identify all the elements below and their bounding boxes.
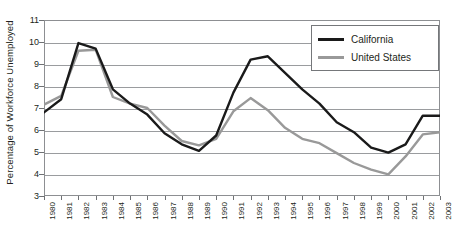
- x-tick-mark-1995: [302, 196, 303, 200]
- x-tick-label-1998: 1998: [358, 202, 367, 220]
- x-tick-label-1999: 1999: [375, 202, 384, 220]
- x-tick-label-1981: 1981: [65, 202, 74, 220]
- x-tick-label-1983: 1983: [100, 202, 109, 220]
- x-tick-label-1985: 1985: [134, 202, 143, 220]
- x-tick-mark-1988: [182, 196, 183, 200]
- x-tick-label-1989: 1989: [203, 202, 212, 220]
- x-tick-label-1997: 1997: [341, 202, 350, 220]
- x-tick-mark-1982: [78, 196, 79, 200]
- x-tick-label-2000: 2000: [392, 202, 401, 220]
- y-axis-ticks: 34567891011: [0, 0, 44, 233]
- x-tick-label-1994: 1994: [289, 202, 298, 220]
- x-tick-mark-1997: [337, 196, 338, 200]
- x-tick-label-1984: 1984: [117, 202, 126, 220]
- x-tick-mark-1990: [216, 196, 217, 200]
- x-tick-mark-1986: [147, 196, 148, 200]
- x-tick-mark-2000: [388, 196, 389, 200]
- x-tick-mark-1983: [96, 196, 97, 200]
- y-tick-label-10: 10: [29, 37, 39, 47]
- x-tick-mark-1996: [319, 196, 320, 200]
- x-tick-mark-1998: [354, 196, 355, 200]
- x-tick-mark-1980: [44, 196, 45, 200]
- legend-label-united-states: United States: [351, 52, 411, 63]
- x-tick-mark-1992: [251, 196, 252, 200]
- x-tick-label-1995: 1995: [306, 202, 315, 220]
- x-tick-mark-1985: [130, 196, 131, 200]
- legend-swatch-california: [318, 38, 344, 41]
- x-tick-mark-1987: [165, 196, 166, 200]
- x-tick-label-2001: 2001: [410, 202, 419, 220]
- x-tick-label-1982: 1982: [82, 202, 91, 220]
- x-tick-label-1986: 1986: [151, 202, 160, 220]
- x-tick-mark-1984: [113, 196, 114, 200]
- x-tick-mark-1991: [233, 196, 234, 200]
- x-tick-mark-2003: [440, 196, 441, 200]
- x-tick-mark-1994: [285, 196, 286, 200]
- x-tick-mark-2002: [423, 196, 424, 200]
- x-tick-label-1988: 1988: [186, 202, 195, 220]
- x-tick-label-1980: 1980: [48, 202, 57, 220]
- x-tick-label-2002: 2002: [427, 202, 436, 220]
- x-tick-label-2003: 2003: [444, 202, 453, 220]
- x-tick-label-1991: 1991: [237, 202, 246, 220]
- x-tick-mark-1989: [199, 196, 200, 200]
- legend-item-california: California: [318, 30, 432, 48]
- x-tick-mark-1993: [268, 196, 269, 200]
- x-tick-mark-1981: [61, 196, 62, 200]
- y-tick-label-11: 11: [30, 15, 39, 25]
- x-tick-label-1987: 1987: [169, 202, 178, 220]
- x-tick-label-1993: 1993: [272, 202, 281, 220]
- x-tick-label-1990: 1990: [220, 202, 229, 220]
- x-tick-mark-2001: [406, 196, 407, 200]
- x-tick-label-1996: 1996: [323, 202, 332, 220]
- chart-legend: California United States: [311, 25, 439, 71]
- x-tick-label-1992: 1992: [255, 202, 264, 220]
- legend-swatch-united-states: [318, 56, 344, 59]
- x-tick-mark-1999: [371, 196, 372, 200]
- legend-label-california: California: [351, 34, 393, 45]
- x-axis-ticks: 1980198119821983198419851986198719881989…: [44, 196, 440, 233]
- legend-item-united-states: United States: [318, 48, 432, 66]
